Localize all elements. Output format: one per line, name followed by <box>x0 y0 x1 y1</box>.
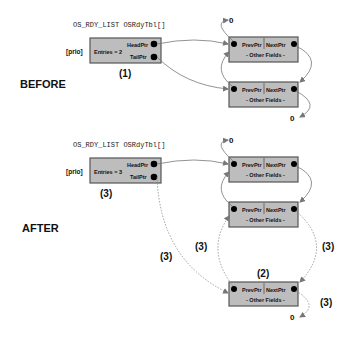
before-step-label: (1) <box>119 68 131 79</box>
before-ready-list-entry: Entries = 2 HeadPtr TailPtr <box>90 38 161 63</box>
after-section: OS_RDY_LIST OSRdyTbl[] [prio] Entries = … <box>22 136 334 322</box>
before-node-1: PrevPtr NextPtr - Other Fields - <box>229 37 298 62</box>
ready-list-insertion-diagram: OS_RDY_LIST OSRdyTbl[] [prio] Entries = … <box>0 0 354 339</box>
svg-text:NextPtr: NextPtr <box>266 207 286 213</box>
after-tail-label: TailPtr <box>130 174 148 180</box>
svg-text:- Other Fields -: - Other Fields - <box>246 97 285 103</box>
link-step-label-next: (3) <box>322 241 334 252</box>
after-step-label: (3) <box>100 188 112 199</box>
link-step-label-tail: (3) <box>160 251 172 262</box>
before-head-label: HeadPtr <box>127 42 149 48</box>
after-null-bottom: 0 <box>290 313 295 322</box>
new-node-step-label: (2) <box>257 268 269 279</box>
svg-text:- Other Fields -: - Other Fields - <box>246 172 285 178</box>
svg-text:PrevPtr: PrevPtr <box>242 207 262 213</box>
before-section: OS_RDY_LIST OSRdyTbl[] [prio] Entries = … <box>20 16 312 123</box>
after-node-3-new: PrevPtr NextPtr - Other Fields - <box>229 282 298 306</box>
svg-text:NextPtr: NextPtr <box>266 162 286 168</box>
before-null-top: 0 <box>229 16 234 25</box>
after-index-label: [prio] <box>66 168 83 176</box>
svg-text:- Other Fields -: - Other Fields - <box>246 297 285 303</box>
before-node-2: PrevPtr NextPtr - Other Fields - <box>229 82 298 107</box>
svg-text:PrevPtr: PrevPtr <box>242 162 262 168</box>
after-node-2: PrevPtr NextPtr - Other Fields - <box>229 202 298 227</box>
after-tail-pointer-dot <box>151 174 158 181</box>
svg-text:NextPtr: NextPtr <box>266 287 286 293</box>
after-entries-label: Entries = 3 <box>94 169 122 175</box>
after-table-title: OS_RDY_LIST OSRdyTbl[] <box>73 141 165 149</box>
before-tail-label: TailPtr <box>130 54 148 60</box>
before-index-label: [prio] <box>66 48 83 56</box>
after-head-label: HeadPtr <box>127 162 149 168</box>
svg-text:NextPtr: NextPtr <box>266 42 286 48</box>
after-node-1: PrevPtr NextPtr - Other Fields - <box>229 157 298 182</box>
link-step-label-prev: (3) <box>195 241 207 252</box>
before-head-pointer-dot <box>151 41 158 48</box>
link-step-label-null: (3) <box>320 297 332 308</box>
svg-text:NextPtr: NextPtr <box>266 87 286 93</box>
svg-text:PrevPtr: PrevPtr <box>242 87 262 93</box>
after-state-label: AFTER <box>22 222 59 234</box>
svg-text:- Other Fields -: - Other Fields - <box>246 52 285 58</box>
before-state-label: BEFORE <box>20 78 66 90</box>
after-null-top: 0 <box>229 136 234 145</box>
svg-text:- Other Fields -: - Other Fields - <box>246 217 285 223</box>
svg-text:PrevPtr: PrevPtr <box>242 287 262 293</box>
after-ready-list-entry: Entries = 3 HeadPtr TailPtr <box>90 158 161 183</box>
before-null-bottom: 0 <box>290 114 295 123</box>
after-head-pointer-dot <box>151 161 158 168</box>
before-entries-label: Entries = 2 <box>94 49 122 55</box>
svg-text:PrevPtr: PrevPtr <box>242 42 262 48</box>
before-tail-pointer-dot <box>151 54 158 61</box>
before-table-title: OS_RDY_LIST OSRdyTbl[] <box>73 21 165 29</box>
